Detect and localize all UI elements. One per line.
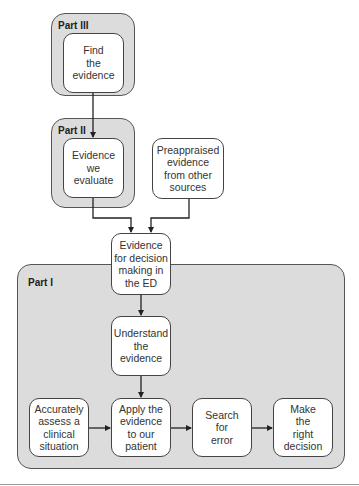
node-assess-situation-label: Accurately assess a clinical situation — [34, 403, 83, 453]
node-evidence-we-evaluate: Evidence we evaluate — [63, 138, 124, 198]
node-search-error: Search for error — [192, 398, 252, 457]
node-apply-evidence-label: Apply the evidence to our patient — [119, 403, 163, 453]
node-evidence-for-decision-label: Evidence for decision making in the ED — [114, 239, 168, 289]
node-find-evidence-label: Find the evidence — [72, 44, 114, 82]
node-preappraised-evidence-label: Preappraised evidence from other sources — [157, 144, 219, 194]
node-evidence-for-decision: Evidence for decision making in the ED — [111, 233, 171, 295]
bottom-divider — [0, 484, 359, 485]
node-find-evidence: Find the evidence — [63, 33, 124, 93]
node-search-error-label: Search for error — [205, 409, 238, 447]
node-right-decision-label: Make the right decision — [284, 403, 323, 453]
node-preappraised-evidence: Preappraised evidence from other sources — [152, 138, 224, 199]
node-apply-evidence: Apply the evidence to our patient — [111, 398, 171, 457]
node-evidence-we-evaluate-label: Evidence we evaluate — [72, 149, 115, 187]
node-right-decision: Make the right decision — [273, 398, 333, 457]
node-understand-evidence: Understand the evidence — [111, 316, 171, 376]
node-understand-evidence-label: Understand the evidence — [114, 327, 168, 365]
node-assess-situation: Accurately assess a clinical situation — [29, 398, 89, 457]
